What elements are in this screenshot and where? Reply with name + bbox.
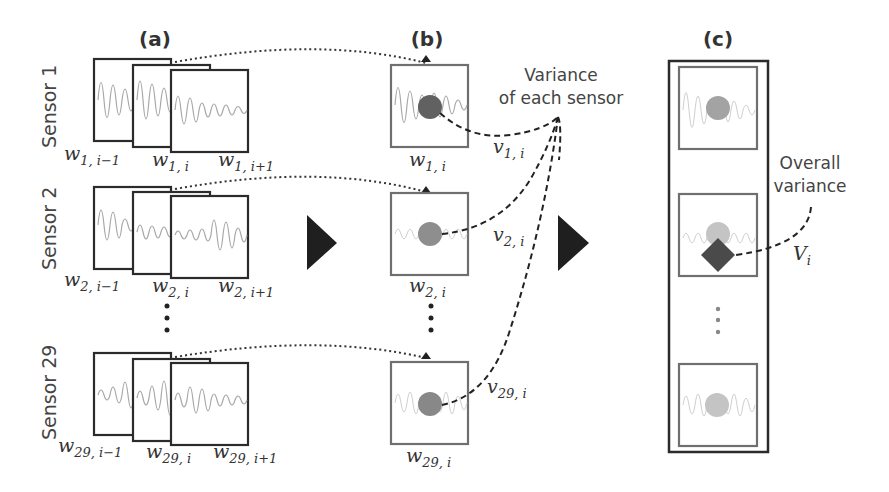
panel-label-c: (c) [703, 27, 733, 51]
variance-each-sensor-label: of each sensor [499, 88, 624, 108]
overall-sensor-2-window [679, 194, 757, 276]
sensor-2-window-stack: Sensor 2 w2, i−1 w2, i w2, i+1 [38, 187, 274, 300]
variance-label: v1, i [493, 135, 524, 161]
variance-circle [418, 222, 442, 246]
variance-diagram: (a) (b) (c) Sensor 1 w1, i−1 w1, i w1, i… [0, 0, 889, 492]
window-label: w2, i−1 [64, 268, 120, 294]
ellipsis-dots [165, 304, 170, 333]
overall-variance-symbol: Vi [793, 242, 811, 268]
panel-label-a: (a) [139, 27, 171, 51]
panel-label-b: (b) [411, 27, 444, 51]
variance-circle [418, 95, 442, 119]
sensor-1-window-stack: Sensor 1 w1, i−1 w1, i w1, i+1 [38, 59, 274, 174]
sensor-label: Sensor 29 [38, 345, 60, 440]
variance-label: v2, i [493, 223, 524, 249]
overall-sensor-29-window [679, 364, 757, 446]
variance-circle [706, 96, 730, 120]
window-label: w1, i−1 [64, 142, 120, 168]
window-label: w2, i [409, 274, 446, 300]
window-label: w1, i [409, 148, 446, 174]
overall-variance-label: Overall [780, 153, 841, 173]
transition-arrow-icon [558, 215, 589, 271]
sensor-29-variance-window [391, 362, 468, 444]
sensor-1-variance-window [391, 65, 468, 147]
variance-circle [705, 393, 729, 417]
window-label: w29, i [406, 444, 451, 470]
variance-circle [418, 392, 442, 416]
transition-arrow-icon [307, 215, 337, 270]
sensor-29-window-stack: Sensor 29 w29, i−1 w29, i w29, i+1 [38, 345, 277, 466]
window-label: w29, i−1 [58, 434, 122, 460]
sensor-label: Sensor 2 [38, 187, 60, 270]
ellipsis-dots [429, 304, 434, 333]
sensor-2-variance-window [391, 193, 468, 275]
overall-sensor-1-window [679, 67, 757, 149]
overall-variance-label: variance [773, 176, 846, 196]
variance-label: v29, i [487, 375, 527, 401]
variance-each-sensor-label: Variance [524, 65, 597, 85]
sensor-label: Sensor 1 [38, 65, 60, 148]
